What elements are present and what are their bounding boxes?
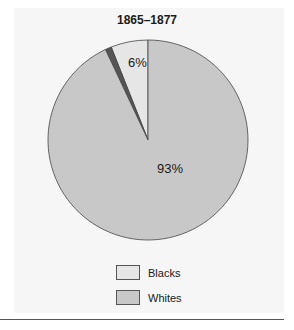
whites-slice [48,40,248,240]
legend-item-whites: Whites [116,285,182,310]
whites-percent-label: 93% [157,161,183,176]
blacks-percent-label: 6% [128,55,147,70]
legend-label-whites: Whites [148,292,182,304]
whites-swatch [116,290,140,305]
legend-item-blacks: Blacks [116,260,182,285]
bottom-rule [0,319,284,320]
legend-label-blacks: Blacks [148,267,180,279]
blacks-swatch [116,265,140,280]
legend: Blacks Whites [116,260,182,310]
